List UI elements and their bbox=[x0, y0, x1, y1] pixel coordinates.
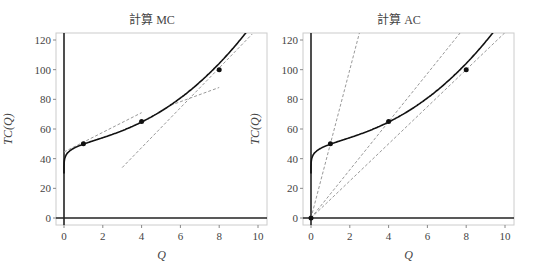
y-tick-label: 100 bbox=[282, 64, 299, 76]
chart-mc-panel: 計算 MC 0246810020406080100120QTC(Q) bbox=[0, 0, 270, 268]
y-tick-label: 20 bbox=[287, 182, 299, 194]
chart-ac: 0246810020406080100120QTC(Q) bbox=[247, 0, 517, 268]
y-tick-label: 80 bbox=[40, 93, 52, 105]
plot-area bbox=[56, 33, 267, 225]
x-tick-label: 2 bbox=[100, 230, 106, 242]
y-tick-label: 120 bbox=[282, 34, 299, 46]
x-axis-label: Q bbox=[404, 248, 413, 262]
x-tick-label: 2 bbox=[347, 230, 353, 242]
x-tick-label: 8 bbox=[216, 230, 222, 242]
x-axis-label: Q bbox=[157, 248, 166, 262]
data-point bbox=[217, 67, 222, 72]
y-axis-label: TC(Q) bbox=[1, 113, 15, 144]
chart-ac-panel: 計算 AC 0246810020406080100120QTC(Q) bbox=[247, 0, 517, 268]
x-tick-label: 8 bbox=[463, 230, 469, 242]
y-tick-label: 20 bbox=[40, 182, 52, 194]
y-axis-label: TC(Q) bbox=[248, 113, 262, 144]
y-tick-label: 60 bbox=[287, 123, 299, 135]
data-point bbox=[139, 119, 144, 124]
data-point bbox=[386, 119, 391, 124]
y-tick-label: 100 bbox=[35, 64, 52, 76]
x-tick-label: 0 bbox=[61, 230, 67, 242]
y-tick-label: 60 bbox=[40, 123, 52, 135]
x-tick-label: 4 bbox=[139, 230, 145, 242]
x-tick-label: 10 bbox=[500, 230, 512, 242]
data-point bbox=[464, 67, 469, 72]
y-tick-label: 80 bbox=[287, 93, 299, 105]
x-tick-label: 6 bbox=[178, 230, 184, 242]
data-point bbox=[328, 141, 333, 146]
y-tick-label: 0 bbox=[293, 212, 299, 224]
y-tick-label: 40 bbox=[287, 153, 299, 165]
data-point bbox=[81, 141, 86, 146]
data-point bbox=[309, 216, 314, 221]
x-tick-label: 6 bbox=[425, 230, 431, 242]
chart-mc: 0246810020406080100120QTC(Q) bbox=[0, 0, 270, 268]
y-tick-label: 0 bbox=[46, 212, 52, 224]
y-tick-label: 40 bbox=[40, 153, 52, 165]
x-tick-label: 4 bbox=[386, 230, 392, 242]
y-tick-label: 120 bbox=[35, 34, 52, 46]
x-tick-label: 0 bbox=[308, 230, 314, 242]
